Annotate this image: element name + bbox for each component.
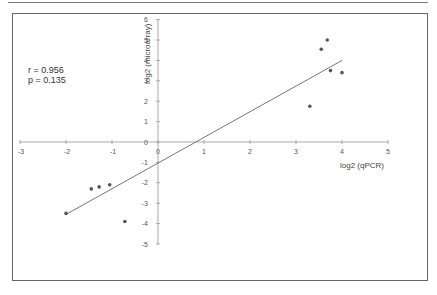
y-tick-label: -3	[142, 200, 148, 207]
x-tick-label: -3	[18, 148, 24, 155]
y-tick-label: 0	[144, 139, 148, 146]
y-tick-label: 1	[144, 118, 148, 125]
data-points	[64, 38, 344, 223]
y-tick-label: -5	[142, 241, 148, 248]
data-point	[90, 187, 94, 191]
x-tick-label: -2	[64, 148, 70, 155]
x-tick-label: -1	[110, 148, 116, 155]
data-point	[308, 105, 312, 109]
x-tick-label: 3	[294, 148, 298, 155]
trend-line	[66, 60, 342, 214]
x-axis-label: log2 (qPCR)	[340, 161, 384, 170]
y-tick-label: 6	[144, 16, 148, 23]
y-tick-label: -2	[142, 179, 148, 186]
y-tick-label: 2	[144, 98, 148, 105]
data-point	[108, 183, 112, 187]
y-axis-label: log2 (microarray)	[143, 23, 152, 84]
x-tick-label: 4	[340, 148, 344, 155]
axes	[20, 20, 388, 244]
y-tick-label: -1	[142, 159, 148, 166]
y-tick-label: -4	[142, 220, 148, 227]
x-tick-label: 1	[202, 148, 206, 155]
data-point	[123, 220, 127, 224]
data-point	[325, 38, 329, 42]
x-tick-label: 0	[156, 148, 160, 155]
p-value: p = 0.135	[28, 75, 66, 85]
tick-labels: -3-2-10123456543210-1-2-3-4-5	[18, 16, 390, 247]
x-tick-label: 5	[386, 148, 390, 155]
data-point	[329, 69, 333, 73]
data-point	[340, 71, 344, 75]
scatter-chart: -3-2-10123456543210-1-2-3-4-5 log2 (qPCR…	[0, 0, 437, 295]
correlation-r: r = 0.956	[28, 65, 64, 75]
data-point	[64, 212, 68, 216]
data-point	[97, 185, 101, 189]
x-tick-label: 2	[248, 148, 252, 155]
data-point	[320, 47, 324, 51]
